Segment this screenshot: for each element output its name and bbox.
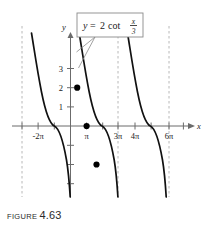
x-tick-label: π [84,131,89,141]
y-tick-label-group: 3 2 1 [59,64,63,112]
asymptote-group [22,26,169,197]
x-tick-label: 4π [131,131,140,141]
leader-line-upper [77,37,96,52]
x-axis-label: x [196,121,201,131]
figure-caption-number: 4.63 [39,209,61,221]
axis-group [12,32,195,197]
equation-equals: = [90,20,96,31]
figure-caption-word: FIGURE [7,212,37,221]
y-axis-arrow [68,32,74,38]
curve-group [32,33,167,197]
marked-point-9pi-4 [93,161,99,167]
curve-branch-middle [79,33,118,197]
equation-coefficient: 2 [100,20,105,31]
equation-callout: y = 2 cot x 3 [77,13,143,37]
figure-caption: FIGURE4.63 [7,206,197,222]
equation-fraction-denominator: 3 [131,27,136,36]
marked-point-3pi-2 [84,123,90,129]
curve-branch-left [32,33,71,197]
x-axis-arrow [188,123,195,129]
curve-branch-right [128,33,167,197]
figure-container: -2π π 3π 4π 6π 3 2 1 x y y = 2 cot x [0,0,207,227]
y-tick-label: 3 [59,64,63,74]
annotation-leader-lines [77,37,96,68]
equation-function: cot [108,20,120,31]
marked-point-3pi-4 [74,85,80,91]
x-tick-label: 3π [114,131,123,141]
x-tick-label-group: -2π π 3π 4π 6π [32,131,174,141]
y-tick-label: 1 [59,102,63,112]
y-tick-label: 2 [59,83,63,93]
x-tick-label: 6π [165,131,174,141]
equation-fraction-numerator: x [131,17,136,26]
cotangent-graph: -2π π 3π 4π 6π 3 2 1 x y y = 2 cot x [0,0,207,200]
equation-lhs: y [82,20,88,31]
y-axis-label: y [61,22,66,32]
x-tick-label: -2π [32,131,44,141]
